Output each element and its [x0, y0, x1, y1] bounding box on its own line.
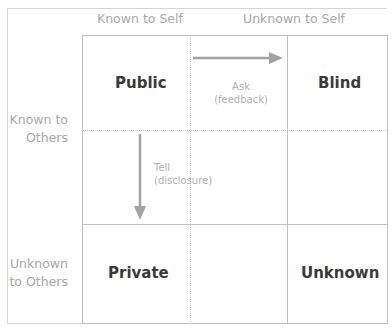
ask-feedback-label: Ask (feedback): [200, 80, 282, 106]
quadrant-blind: Blind: [318, 74, 361, 92]
column-label-unknown-to-self: Unknown to Self: [243, 11, 345, 26]
row-label-line: to Others: [2, 273, 68, 291]
quadrant-public: Public: [115, 74, 167, 92]
row-label-line: Unknown: [2, 255, 68, 273]
row-divider: [82, 224, 388, 225]
tell-label: Tell: [154, 161, 212, 174]
arrow-right-icon: [193, 50, 285, 66]
row-label-line: Known to: [2, 111, 68, 129]
feedback-label: (feedback): [200, 93, 282, 106]
dashed-row-guide: [82, 130, 388, 131]
quadrant-private: Private: [108, 264, 169, 282]
column-label-known-to-self: Known to Self: [97, 11, 183, 26]
row-label-known-to-others: Known to Others: [2, 111, 68, 147]
row-label-line: Others: [2, 129, 68, 147]
arrow-down-icon: [132, 134, 148, 222]
ask-label: Ask: [200, 80, 282, 93]
disclosure-label: (disclosure): [154, 174, 212, 187]
row-label-unknown-to-others: Unknown to Others: [2, 255, 68, 291]
tell-disclosure-label: Tell (disclosure): [154, 161, 212, 187]
column-divider: [287, 35, 288, 324]
quadrant-unknown: Unknown: [301, 264, 379, 282]
